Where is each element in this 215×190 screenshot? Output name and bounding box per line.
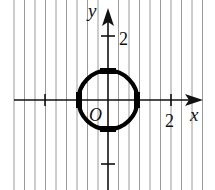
y-axis-label: y	[86, 0, 97, 21]
coordinate-diagram: y x O 2 2	[0, 0, 215, 190]
circle-point-top	[100, 68, 116, 74]
y-tick-label-2: 2	[119, 29, 128, 49]
circle-point-bottom	[100, 126, 116, 132]
origin-label: O	[89, 105, 102, 125]
y-axis	[101, 8, 115, 190]
x-axis-label: x	[189, 104, 199, 125]
circle-point-left	[76, 92, 82, 108]
circle-point-right	[134, 92, 140, 108]
x-tick-label-2: 2	[165, 111, 174, 131]
